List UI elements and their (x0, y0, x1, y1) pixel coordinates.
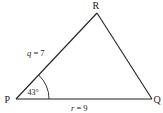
side-eq-r: = 9 (74, 103, 87, 113)
vertex-label-r: R (93, 0, 100, 11)
side-rq (97, 13, 152, 99)
angle-label-p: 43° (28, 88, 39, 97)
side-label-r: r = 9 (71, 103, 88, 113)
side-label-q: q = 7 (27, 48, 45, 58)
side-eq-q: = 7 (31, 48, 44, 58)
triangle-diagram: P Q R q = 7 r = 9 43° (0, 0, 163, 113)
vertex-label-p: P (5, 94, 11, 105)
vertex-label-q: Q (154, 94, 162, 105)
angle-arc-p (39, 75, 49, 99)
